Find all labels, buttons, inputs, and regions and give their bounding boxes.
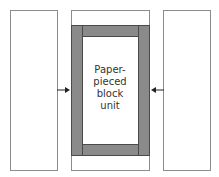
label-line-2: pieced [82,76,138,88]
right-panel [163,10,211,171]
arrow-right-icon [57,86,71,94]
arrow-left-icon [150,86,164,94]
center-label: Paper- pieced block unit [82,64,138,112]
label-line-3: block [82,88,138,100]
right-gray-strip [138,25,150,156]
label-line-1: Paper- [82,64,138,76]
top-gray-strip [82,25,139,37]
left-panel [10,10,58,171]
bottom-gray-strip [82,144,139,156]
label-line-4: unit [82,100,138,112]
